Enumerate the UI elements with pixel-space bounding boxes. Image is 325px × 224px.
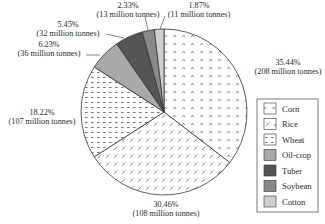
leader-cotton — [160, 16, 165, 29]
label-corn-value: (208 million tonnes) — [255, 67, 322, 76]
legend-label-rice: Rice — [282, 119, 298, 129]
legend-swatch-oil-crop — [264, 150, 276, 161]
pie-slices — [81, 29, 247, 195]
label-oil-crop-pct: 6.23% — [38, 40, 59, 49]
legend-swatch-tuber — [264, 165, 276, 176]
label-wheat-pct: 18.22% — [29, 108, 54, 117]
legend-label-corn: Corn — [282, 104, 300, 114]
pie-chart: 35.44% (208 million tonnes) 30.46% (108 … — [0, 0, 325, 224]
legend-label-oil-crop: Oil-crop — [282, 150, 311, 160]
label-oil-crop-value: (36 million tonnes) — [18, 49, 81, 58]
legend-swatch-wheat — [264, 134, 276, 145]
label-rice-pct: 30.46% — [153, 200, 178, 209]
label-soybean-value: (13 million tonnes) — [97, 10, 160, 19]
legend-label-soybean: Soybean — [282, 181, 312, 191]
leader-tuber — [106, 34, 124, 38]
label-cotton-value: (11 million tonnes) — [168, 10, 231, 19]
legend-swatch-cotton — [264, 196, 276, 207]
legend-swatch-soybean — [264, 181, 276, 192]
label-tuber-pct: 5.45% — [57, 20, 78, 29]
label-rice-value: (108 million tonnes) — [133, 209, 200, 218]
legend-label-cotton: Cotton — [282, 197, 306, 207]
legend-label-wheat: Wheat — [282, 135, 305, 145]
label-cotton-pct: 1.87% — [188, 1, 209, 10]
legend: Corn Rice Wheat Oil-crop Tuber Soybean C… — [257, 99, 318, 212]
label-wheat-value: (107 million tonnes) — [9, 117, 76, 126]
legend-label-tuber: Tuber — [282, 166, 302, 176]
label-soybean-pct: 2.33% — [117, 1, 138, 10]
legend-swatch-corn — [264, 103, 276, 114]
label-corn-pct: 35.44% — [275, 58, 300, 67]
label-tuber-value: (32 million tonnes) — [37, 29, 100, 38]
legend-swatch-rice — [264, 119, 276, 130]
